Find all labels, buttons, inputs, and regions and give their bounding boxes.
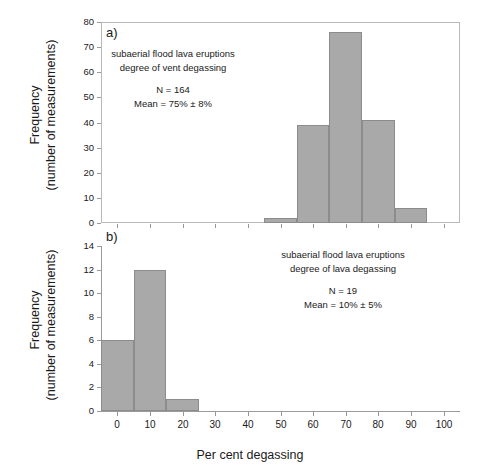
x-tick-label: 40 <box>233 419 263 430</box>
x-tick-label: 90 <box>396 419 426 430</box>
panel-b-annotation-line-2: degree of lava degassing <box>238 262 448 276</box>
bar <box>264 218 297 223</box>
x-tick-b <box>346 412 347 416</box>
y-tick-label: 10 <box>67 193 94 203</box>
y-tick-label: 0 <box>67 406 94 416</box>
y-tick-a <box>97 22 101 23</box>
y-tick-b <box>97 411 101 412</box>
y-tick-b <box>97 246 101 247</box>
y-tick-label: 10 <box>67 288 94 298</box>
x-tick-a <box>444 224 445 228</box>
x-tick-label: 70 <box>331 419 361 430</box>
x-tick-a <box>411 224 412 228</box>
x-tick-a <box>248 224 249 228</box>
x-tick-b <box>444 412 445 416</box>
panel-a-y-axis-title-line2: (number of measurements) <box>44 20 58 210</box>
panel-a-annotation-line-2: degree of vent degassing <box>68 61 278 75</box>
panel-b-annotation-line-3: N = 19 <box>238 284 448 298</box>
x-tick-b <box>281 412 282 416</box>
y-tick-label: 12 <box>67 265 94 275</box>
y-tick-b <box>97 340 101 341</box>
y-tick-b <box>97 293 101 294</box>
x-tick-b <box>248 412 249 416</box>
x-axis-title: Per cent degassing <box>150 448 350 462</box>
x-tick-b <box>117 412 118 416</box>
bar <box>362 120 395 223</box>
panel-b-annotation-line-1: subaerial flood lava eruptions <box>238 248 448 262</box>
bar <box>395 208 428 223</box>
y-tick-label: 6 <box>67 335 94 345</box>
panel-a-annotation: subaerial flood lava eruptionsdegree of … <box>68 47 278 111</box>
y-tick-a <box>97 123 101 124</box>
y-tick-label: 20 <box>67 168 94 178</box>
y-tick-a <box>97 148 101 149</box>
y-tick-label: 8 <box>67 312 94 322</box>
figure-root: 01020304050607080a)subaerial flood lava … <box>0 0 481 476</box>
y-tick-a <box>97 198 101 199</box>
bar <box>329 32 362 223</box>
panel-b-annotation: subaerial flood lava eruptionsdegree of … <box>238 248 448 312</box>
y-tick-label: 40 <box>67 118 94 128</box>
x-tick-label: 50 <box>266 419 296 430</box>
x-tick-label: 100 <box>429 419 459 430</box>
x-tick-label: 60 <box>298 419 328 430</box>
x-tick-a <box>215 224 216 228</box>
panel-b-annotation-line-4: Mean = 10% ± 5% <box>238 298 448 312</box>
x-tick-a <box>150 224 151 228</box>
panel-a-annotation-line-1: subaerial flood lava eruptions <box>68 47 278 61</box>
x-tick-a <box>378 224 379 228</box>
bar <box>134 270 167 411</box>
x-tick-label: 20 <box>168 419 198 430</box>
panel-a-tag: a) <box>106 25 118 40</box>
x-tick-a <box>346 224 347 228</box>
y-tick-b <box>97 270 101 271</box>
panel-a-y-axis-title-line1: Frequency <box>28 35 42 195</box>
x-tick-a <box>117 224 118 228</box>
panel-a-annotation-line-3: N = 164 <box>68 83 278 97</box>
y-tick-label: 14 <box>67 241 94 251</box>
x-tick-b <box>411 412 412 416</box>
x-tick-b <box>313 412 314 416</box>
panel-b-y-axis-title-line2: (number of measurements) <box>44 230 58 420</box>
bar <box>166 399 199 411</box>
x-tick-label: 10 <box>135 419 165 430</box>
panel-b-tag: b) <box>106 229 118 244</box>
bar <box>101 340 134 411</box>
x-tick-label: 80 <box>363 419 393 430</box>
x-tick-label: 0 <box>102 419 132 430</box>
y-tick-b <box>97 364 101 365</box>
x-tick-label: 30 <box>200 419 230 430</box>
x-tick-b <box>378 412 379 416</box>
x-tick-b <box>215 412 216 416</box>
y-tick-a <box>97 173 101 174</box>
y-tick-b <box>97 387 101 388</box>
y-tick-label: 4 <box>67 359 94 369</box>
y-tick-a <box>97 223 101 224</box>
y-tick-label: 80 <box>67 17 94 27</box>
x-tick-a <box>313 224 314 228</box>
y-tick-label: 2 <box>67 382 94 392</box>
y-tick-label: 30 <box>67 143 94 153</box>
panel-b-y-axis-title-line1: Frequency <box>28 240 42 400</box>
bar <box>297 125 330 223</box>
x-tick-a <box>281 224 282 228</box>
panel-a-annotation-line-4: Mean = 75% ± 8% <box>68 97 278 111</box>
y-tick-label: 0 <box>67 218 94 228</box>
y-tick-b <box>97 317 101 318</box>
x-tick-b <box>150 412 151 416</box>
x-tick-b <box>183 412 184 416</box>
x-tick-a <box>183 224 184 228</box>
